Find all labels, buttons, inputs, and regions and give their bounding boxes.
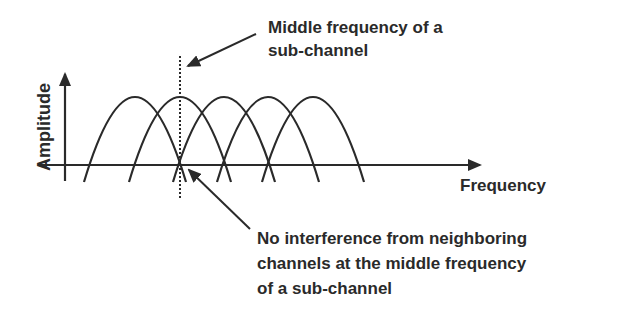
subchannel-3-curve xyxy=(173,97,275,182)
bottom-annotation-arrow xyxy=(189,170,250,229)
subchannel-1-curve xyxy=(84,97,186,182)
ofdm-spectrum-diagram: Amplitude Frequency Middle frequency of … xyxy=(0,0,629,316)
x-axis-label: Frequency xyxy=(460,174,546,197)
subchannel-curves xyxy=(84,97,364,182)
annotation-line: channels at the middle frequency xyxy=(257,251,527,276)
annotation-line: No interference from neighboring xyxy=(257,226,527,251)
middle-frequency-annotation: Middle frequency of a sub-channel xyxy=(268,16,443,62)
annotation-line: sub-channel xyxy=(268,39,443,62)
subchannel-5-curve xyxy=(262,97,364,182)
top-annotation-arrow xyxy=(188,34,256,66)
y-axis-label: Amplitude xyxy=(33,83,56,171)
subchannel-4-curve xyxy=(217,97,319,182)
no-interference-annotation: No interference from neighboring channel… xyxy=(257,226,527,301)
annotation-line: of a sub-channel xyxy=(257,276,527,301)
annotation-line: Middle frequency of a xyxy=(268,16,443,39)
